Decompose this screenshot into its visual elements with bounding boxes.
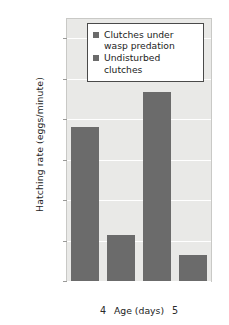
chart-figure: Hatching rate (eggs/minute) 0.00010.0010… — [0, 0, 229, 325]
legend-swatch-icon — [93, 55, 99, 61]
y-tick-mark — [63, 119, 67, 120]
y-tick-mark — [63, 200, 67, 201]
bar — [179, 255, 207, 281]
y-gridline — [67, 281, 211, 282]
y-tick-mark — [63, 241, 67, 242]
bar — [143, 92, 171, 281]
y-tick-mark — [63, 160, 67, 161]
legend-swatch-icon — [93, 32, 99, 38]
legend-item: Undisturbed clutches — [93, 52, 196, 74]
x-axis-title: Age (days) — [66, 305, 212, 316]
y-tick-mark — [63, 38, 67, 39]
legend-item-label: Undisturbed clutches — [104, 52, 196, 74]
y-axis-title: Hatching rate (eggs/minute) — [34, 45, 45, 245]
bar — [71, 127, 99, 281]
y-gridline — [67, 119, 211, 120]
legend-item: Clutches under wasp predation — [93, 29, 196, 51]
chart-legend: Clutches under wasp predation Undisturbe… — [87, 23, 204, 82]
legend-item-label: Clutches under wasp predation — [104, 29, 196, 51]
bar — [107, 235, 135, 281]
y-tick-mark — [63, 79, 67, 80]
y-tick-mark — [63, 281, 67, 282]
